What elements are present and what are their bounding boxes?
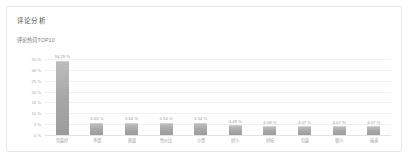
bar[interactable]	[125, 123, 138, 135]
x-axis-tick-label: 包装好	[56, 138, 68, 143]
y-axis-tick-label: 25 %	[31, 78, 41, 83]
bar[interactable]	[56, 61, 69, 135]
y-axis-tick-label: 35 %	[31, 57, 41, 62]
bar[interactable]	[298, 126, 311, 135]
axis-baseline	[45, 135, 391, 136]
bar-value-label: 4.49 %	[229, 119, 242, 124]
bar-value-label: 4.07 %	[333, 120, 346, 125]
x-axis-tick-label: 好小	[231, 138, 239, 143]
y-axis-tick-label: 0 %	[34, 133, 41, 138]
bar[interactable]	[229, 125, 242, 135]
x-axis-tick-label: 包装	[301, 138, 309, 143]
bar-value-label: 34.29 %	[55, 54, 70, 59]
bar-group[interactable]: 4.49 %好小	[229, 59, 242, 135]
y-axis-tick-label: 20 %	[31, 89, 41, 94]
bar-group[interactable]: 5.65 %不错	[90, 59, 103, 135]
bar[interactable]	[160, 123, 173, 135]
x-axis-tick-label: 好吃	[266, 138, 274, 143]
page-title: 评论分析	[17, 16, 46, 25]
plot-area: 35 %30 %25 %20 %15 %10 %5 %0 %34.29 %包装好…	[45, 59, 391, 135]
bar[interactable]	[333, 126, 346, 135]
bar[interactable]	[263, 126, 276, 135]
bar-group[interactable]: 5.54 %小贵	[194, 59, 207, 135]
bar-group[interactable]: 4.07 %味道	[367, 59, 380, 135]
x-axis-tick-label: 不错	[93, 138, 101, 143]
bar-value-label: 5.64 %	[125, 116, 138, 121]
bar[interactable]	[367, 126, 380, 135]
bar-group[interactable]: 5.64 %质量	[125, 59, 138, 135]
x-axis-tick-label: 很小	[335, 138, 343, 143]
bar-value-label: 4.07 %	[298, 120, 311, 125]
x-axis-tick-label: 小贵	[197, 138, 205, 143]
x-axis-tick-label: 性价比	[160, 138, 172, 143]
bar-group[interactable]: 34.29 %包装好	[56, 59, 69, 135]
y-axis-tick-label: 5 %	[34, 122, 41, 127]
bar[interactable]	[194, 123, 207, 135]
y-axis-tick-label: 15 %	[31, 100, 41, 105]
chart-title: 评论热词TOP10	[17, 37, 55, 44]
y-axis-tick-label: 30 %	[31, 67, 41, 72]
bar-value-label: 4.08 %	[263, 120, 276, 125]
bar-group[interactable]: 5.54 %性价比	[160, 59, 173, 135]
bar-value-label: 4.07 %	[367, 120, 380, 125]
comment-analysis-card: 评论分析 评论热词TOP10 35 %30 %25 %20 %15 %10 %5…	[6, 6, 402, 152]
bar-value-label: 5.65 %	[90, 116, 103, 121]
x-axis-tick-label: 质量	[128, 138, 136, 143]
bar-group[interactable]: 4.07 %包装	[298, 59, 311, 135]
bar-group[interactable]: 4.08 %好吃	[263, 59, 276, 135]
screenshot-root: 评论分析 评论热词TOP10 35 %30 %25 %20 %15 %10 %5…	[0, 0, 408, 163]
bar-group[interactable]: 4.07 %很小	[333, 59, 346, 135]
bar[interactable]	[90, 123, 103, 135]
bar-value-label: 5.54 %	[160, 116, 173, 121]
x-axis-tick-label: 味道	[370, 138, 378, 143]
hot-words-bar-chart: 35 %30 %25 %20 %15 %10 %5 %0 %34.29 %包装好…	[15, 51, 395, 149]
bar-value-label: 5.54 %	[194, 116, 207, 121]
y-axis-tick-label: 10 %	[31, 111, 41, 116]
